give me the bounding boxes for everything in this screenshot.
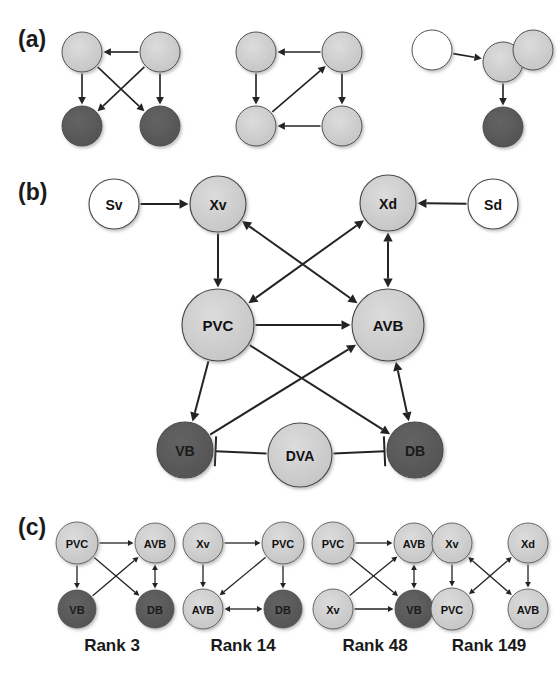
- node-label-avb: AVB: [192, 604, 214, 616]
- node-label-pvc: PVC: [322, 538, 345, 550]
- node-label-db: DB: [275, 604, 291, 616]
- rank-label-motif-c3: Rank 48: [342, 636, 407, 655]
- node-label-avb: AVB: [144, 538, 166, 550]
- node-label-sd: Sd: [484, 197, 502, 213]
- node-unlabeled[interactable]: [483, 107, 523, 147]
- node-unlabeled[interactable]: [62, 32, 102, 72]
- node-unlabeled[interactable]: [62, 106, 102, 146]
- figure-canvas: SvXvXdSdPVCAVBVBDVADBPVCAVBVBDBXvPVCAVBD…: [0, 0, 557, 676]
- node-unlabeled[interactable]: [140, 106, 180, 146]
- panel-label-panel-a: (a): [18, 26, 46, 52]
- node-label-xv: Xv: [326, 604, 340, 616]
- nodes-motif-b: SvXvXdSdPVCAVBVBDVADB: [89, 175, 518, 487]
- circuit-motif-figure: SvXvXdSdPVCAVBVBDVADBPVCAVBVBDBXvPVCAVBD…: [0, 0, 557, 676]
- node-label-avb: AVB: [517, 604, 539, 616]
- node-unlabeled[interactable]: [140, 32, 180, 72]
- rank-label-motif-c4: Rank 149: [452, 636, 527, 655]
- panel-label-panel-b: (b): [18, 179, 47, 205]
- node-label-vb: VB: [69, 604, 84, 616]
- panel-label-panel-c: (c): [18, 514, 46, 540]
- node-unlabeled[interactable]: [236, 32, 276, 72]
- node-unlabeled[interactable]: [322, 106, 362, 146]
- node-label-sv: Sv: [105, 197, 122, 213]
- node-label-pvc: PVC: [66, 538, 89, 550]
- node-label-avb: AVB: [373, 317, 404, 334]
- rank-label-motif-c2: Rank 14: [210, 636, 276, 655]
- node-label-pvc: PVC: [441, 604, 464, 616]
- node-unlabeled[interactable]: [322, 32, 362, 72]
- node-label-vb: VB: [406, 604, 421, 616]
- node-label-vb: VB: [175, 443, 194, 459]
- rank-label-motif-c1: Rank 3: [84, 636, 140, 655]
- node-label-dva: DVA: [286, 448, 315, 464]
- node-label-avb: AVB: [403, 538, 425, 550]
- nodes-layer: SvXvXdSdPVCAVBVBDVADBPVCAVBVBDBXvPVCAVBD…: [56, 30, 553, 630]
- node-unlabeled[interactable]: [236, 106, 276, 146]
- node-unlabeled[interactable]: [513, 30, 553, 70]
- node-label-db: DB: [147, 604, 163, 616]
- node-unlabeled[interactable]: [412, 30, 452, 70]
- node-label-pvc: PVC: [272, 538, 295, 550]
- node-label-xv: Xv: [445, 538, 459, 550]
- node-label-xd: Xd: [379, 196, 397, 212]
- node-label-xv: Xv: [196, 538, 210, 550]
- nodes-motif-a3: [412, 30, 553, 147]
- node-label-db: DB: [405, 443, 425, 459]
- node-label-xd: Xd: [521, 538, 535, 550]
- node-label-xv: Xv: [209, 197, 226, 213]
- node-label-pvc: PVC: [203, 317, 234, 334]
- edges-motif-c4: [449, 557, 531, 595]
